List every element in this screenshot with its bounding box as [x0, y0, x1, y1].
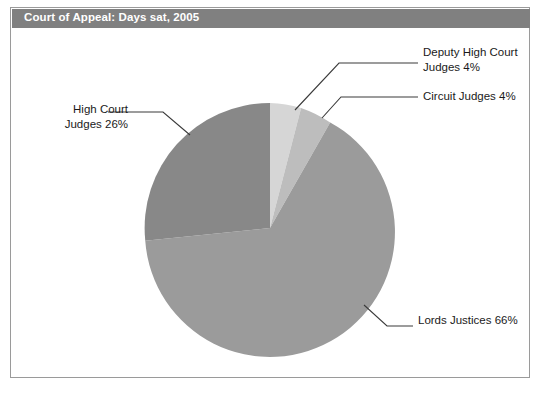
data-label-high-court-judges-line1: High Court — [20, 102, 128, 117]
data-label-high-court-judges-line2: Judges 26% — [20, 117, 128, 132]
chart-title-bar: Court of Appeal: Days sat, 2005 — [12, 9, 530, 28]
data-label-deputy-high-court-judges: Deputy High Court Judges 4% — [423, 45, 543, 75]
page-title: Court of Appeal: Days sat, 2005 — [24, 11, 199, 23]
data-label-high-court-judges: High Court Judges 26% — [20, 102, 128, 132]
data-label-circuit-judges-text: Circuit Judges 4% — [423, 89, 548, 104]
data-label-lords-justices-text: Lords Justices 66% — [418, 313, 543, 328]
data-label-lords-justices: Lords Justices 66% — [418, 313, 543, 328]
data-label-deputy-high-court-judges-line2: Judges 4% — [423, 60, 543, 75]
data-label-deputy-high-court-judges-line1: Deputy High Court — [423, 45, 543, 60]
data-label-circuit-judges: Circuit Judges 4% — [423, 89, 548, 104]
